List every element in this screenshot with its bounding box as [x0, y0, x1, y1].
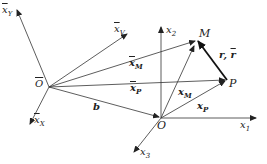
- axis-xV-bar: [49, 34, 127, 87]
- label-xX-bar: xX: [34, 115, 45, 128]
- label-r-rbar: r, r: [219, 50, 236, 60]
- label-xV-bar: xV: [114, 24, 125, 37]
- label-M: M: [199, 28, 210, 39]
- label-O: O: [157, 120, 166, 131]
- vector-r: [198, 41, 227, 80]
- vector-diagram: xY xV xX O xM xP b x2 M r, r P xM xP O x…: [0, 0, 267, 164]
- label-P: P: [229, 78, 236, 89]
- label-xY-bar: xY: [2, 5, 12, 18]
- vector-b: [49, 87, 159, 117]
- label-xM: xM: [178, 87, 192, 99]
- label-b: b: [93, 102, 100, 112]
- label-xM-bar: xM: [129, 58, 143, 70]
- label-x1: x1: [240, 120, 250, 133]
- axis-xY-bar: [17, 10, 49, 87]
- vector-xP: [161, 81, 225, 118]
- label-xP-bar: xP: [130, 83, 141, 95]
- label-x3: x3: [140, 147, 150, 160]
- label-x2: x2: [166, 25, 176, 38]
- label-O-bar: O: [35, 79, 43, 89]
- label-xP: xP: [197, 101, 208, 113]
- vector-xM-bar: [49, 41, 195, 87]
